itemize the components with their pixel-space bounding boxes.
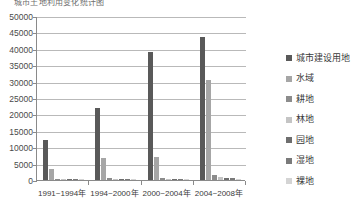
bar bbox=[148, 52, 153, 180]
y-axis-tick bbox=[33, 115, 37, 116]
x-axis-tick bbox=[141, 181, 142, 185]
figure-caption: 城市土地利用变化统计图 bbox=[14, 0, 104, 7]
bar bbox=[67, 179, 72, 180]
chart-figure: 城市土地利用变化统计图 0500010000150002000025000300… bbox=[0, 0, 358, 221]
bar bbox=[73, 179, 78, 180]
legend-item[interactable]: 林地 bbox=[286, 110, 358, 131]
bar bbox=[172, 179, 177, 180]
bar bbox=[61, 179, 66, 180]
bar bbox=[224, 178, 229, 180]
legend-swatch-icon bbox=[286, 96, 292, 102]
y-axis-labels: 0500010000150002000025000300003500040000… bbox=[0, 17, 33, 181]
y-axis-tick-label: 10000 bbox=[9, 144, 33, 153]
x-axis-tick bbox=[88, 181, 89, 185]
bar bbox=[95, 108, 100, 180]
x-axis-tick-label: 1994~2000年 bbox=[88, 187, 140, 198]
legend-item-label: 耕地 bbox=[296, 95, 314, 104]
legend-swatch-icon bbox=[286, 158, 292, 164]
bar bbox=[178, 179, 183, 180]
bar bbox=[43, 140, 48, 180]
x-axis-tick-label: 2004~2008年 bbox=[193, 187, 245, 198]
bar bbox=[212, 175, 217, 180]
bar bbox=[131, 179, 136, 180]
bar bbox=[230, 178, 235, 180]
y-axis-tick bbox=[33, 66, 37, 67]
y-axis-tick-label: 25000 bbox=[9, 95, 33, 104]
bar-group bbox=[148, 17, 190, 180]
legend-item[interactable]: 耕地 bbox=[286, 89, 358, 110]
bar bbox=[166, 179, 171, 180]
x-axis-tick bbox=[245, 181, 246, 185]
bar bbox=[113, 179, 118, 180]
x-axis-tick bbox=[193, 181, 194, 185]
bar bbox=[184, 179, 189, 180]
bar bbox=[200, 37, 205, 180]
legend-item-label: 城市建设用地 bbox=[296, 54, 350, 63]
y-axis-tick-label: 45000 bbox=[9, 29, 33, 38]
bar bbox=[206, 80, 211, 180]
x-axis-tick-label: 2000~2004年 bbox=[141, 187, 193, 198]
y-axis-tick bbox=[33, 17, 37, 18]
legend-item[interactable]: 园地 bbox=[286, 130, 358, 151]
y-axis-tick bbox=[33, 132, 37, 133]
legend-swatch-icon bbox=[286, 178, 292, 184]
x-axis-tick-label: 1991~1994年 bbox=[36, 187, 88, 198]
chart-legend: 城市建设用地水域耕地林地园地湿地裸地 bbox=[286, 48, 358, 192]
legend-item-label: 林地 bbox=[296, 115, 314, 124]
bar bbox=[236, 179, 241, 180]
bar bbox=[101, 158, 106, 180]
bar bbox=[218, 177, 223, 180]
bar bbox=[107, 178, 112, 180]
legend-swatch-icon bbox=[286, 137, 292, 143]
plot-area bbox=[36, 17, 245, 181]
y-axis-tick-label: 15000 bbox=[9, 128, 33, 137]
y-axis-tick bbox=[33, 50, 37, 51]
legend-item-label: 裸地 bbox=[296, 177, 314, 186]
bar bbox=[55, 179, 60, 180]
bar-group bbox=[95, 17, 137, 180]
legend-swatch-icon bbox=[286, 76, 292, 82]
legend-item-label: 湿地 bbox=[296, 156, 314, 165]
legend-item[interactable]: 湿地 bbox=[286, 151, 358, 172]
y-axis-tick-label: 50000 bbox=[9, 13, 33, 22]
bar bbox=[125, 179, 130, 180]
y-axis-tick bbox=[33, 33, 37, 34]
y-axis-tick bbox=[33, 165, 37, 166]
y-axis-tick bbox=[33, 181, 37, 182]
y-axis-tick-label: 40000 bbox=[9, 46, 33, 55]
y-axis-tick bbox=[33, 83, 37, 84]
bar bbox=[154, 157, 159, 180]
bar bbox=[119, 179, 124, 180]
legend-swatch-icon bbox=[286, 55, 292, 61]
bar bbox=[160, 178, 165, 180]
legend-item[interactable]: 城市建设用地 bbox=[286, 48, 358, 69]
legend-swatch-icon bbox=[286, 117, 292, 123]
legend-item[interactable]: 水域 bbox=[286, 69, 358, 90]
y-axis-tick bbox=[33, 148, 37, 149]
y-axis-tick-label: 5000 bbox=[14, 160, 33, 169]
y-axis-tick bbox=[33, 99, 37, 100]
bar bbox=[49, 169, 54, 180]
y-axis-tick-label: 20000 bbox=[9, 111, 33, 120]
y-axis-tick-label: 30000 bbox=[9, 78, 33, 87]
legend-item-label: 水域 bbox=[296, 74, 314, 83]
bar-group bbox=[200, 17, 242, 180]
bar-group bbox=[43, 17, 85, 180]
legend-item-label: 园地 bbox=[296, 136, 314, 145]
bar bbox=[79, 179, 84, 180]
legend-item[interactable]: 裸地 bbox=[286, 171, 358, 192]
y-axis-tick-label: 35000 bbox=[9, 62, 33, 71]
